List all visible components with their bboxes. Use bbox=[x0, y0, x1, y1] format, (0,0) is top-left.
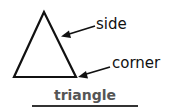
corner-arrow bbox=[78, 67, 110, 79]
side-arrow bbox=[61, 26, 95, 38]
corner-label: corner bbox=[112, 56, 160, 71]
caption-underline bbox=[32, 105, 138, 107]
side-label: side bbox=[96, 17, 127, 32]
caption: triangle bbox=[32, 88, 138, 102]
triangle-shape bbox=[14, 12, 76, 77]
